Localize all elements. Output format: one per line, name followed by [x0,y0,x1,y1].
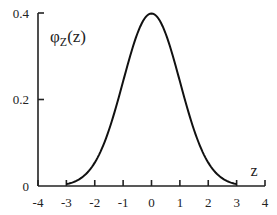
x-tick-labels: -4-3-2-101234 [33,195,269,210]
x-tick-label: -2 [89,195,100,210]
x-tick-label: 4 [262,195,269,210]
y-tick-labels: 0.4 0.2 0 [13,6,30,194]
x-axis-label: z [250,162,257,179]
x-tick-label: 3 [233,195,240,210]
svg-text:φZ(z): φZ(z) [50,27,86,49]
x-tick-label: 2 [205,195,212,210]
y-tick-label: 0 [23,179,30,194]
y-axis [38,13,44,186]
x-tick-label: -1 [118,195,129,210]
x-tick-label: 0 [148,195,155,210]
y-axis-label: φZ(z) [50,27,86,49]
x-tick-label: 1 [177,195,184,210]
x-tick-label: -3 [61,195,72,210]
chart: 0.4 0.2 0 -4-3-2-101234 φZ(z) z [0,0,277,215]
x-tick-label: -4 [33,195,44,210]
y-tick-label: 0.2 [13,92,29,107]
density-curve [66,13,236,184]
y-tick-label: 0.4 [13,6,30,21]
